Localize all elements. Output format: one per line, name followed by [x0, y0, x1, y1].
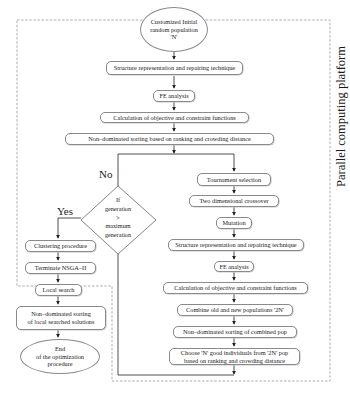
step-local-search: Local search	[35, 284, 82, 296]
no-label: No	[99, 168, 112, 180]
step-fe-analysis-2: FE analysis	[214, 261, 254, 272]
start-line-3: 'N'	[171, 33, 178, 40]
decision-line-3: >	[88, 214, 148, 223]
step-mutation: Mutation	[216, 217, 252, 229]
step-combine-populations: Combine old and new populations '2N'	[177, 304, 293, 316]
start-line-1: Customized Initial	[151, 18, 198, 25]
step-non-dominated-combined: Non–dominated sorting of combined pop	[173, 326, 297, 338]
choose-line-1: Choose 'N' good individuals from '2N' po…	[181, 349, 288, 357]
step-calculation: Calculation of objective and constraint …	[100, 112, 249, 123]
step-non-dominated-sorting: Non–dominated sorting based on ranking a…	[65, 133, 274, 145]
end-line-3: procedure	[47, 360, 72, 367]
decision-line-2: generation	[88, 205, 148, 214]
platform-label: Parallel computing platform	[334, 46, 349, 187]
step-calculation-2: Calculation of objective and constraint …	[163, 282, 308, 294]
step-structure-representation-2: Structure representation and repairing t…	[168, 239, 304, 251]
step-choose-individuals: Choose 'N' good individuals from '2N' po…	[169, 348, 300, 365]
yes-label: Yes	[57, 205, 73, 217]
step-terminate-nsga: Terminate NSGA–II	[25, 262, 96, 274]
end-line-2: of the optimization	[36, 353, 84, 360]
step-crossover: Two dimensional crossover	[189, 195, 279, 207]
choose-line-2: based on ranking and crowding distance	[184, 357, 285, 365]
step-clustering: Clustering procedure	[25, 240, 96, 252]
start-node: Customized Initial random population 'N'	[140, 7, 208, 52]
step-non-dominated-local: Non–dominated sorting of local searched …	[16, 306, 106, 330]
step-fe-analysis: FE analysis	[153, 90, 195, 102]
decision-text: If generation > maximum generation	[88, 196, 148, 240]
end-node: End of the optimization procedure	[20, 339, 100, 374]
end-line-1: End	[55, 345, 65, 352]
flowchart: Parallel computing platform Customized I…	[0, 0, 350, 399]
post-sort-line-1: Non–dominated sorting	[31, 310, 91, 318]
decision-line-5: generation	[88, 231, 148, 240]
post-sort-line-2: of local searched solutions	[28, 318, 95, 326]
start-line-2: random population	[150, 26, 198, 33]
step-tournament-selection: Tournament selection	[197, 173, 271, 186]
decision-line-1: If	[88, 196, 148, 205]
decision-line-4: maximum	[88, 222, 148, 231]
step-structure-representation: Structure representation and repairing t…	[106, 61, 243, 75]
